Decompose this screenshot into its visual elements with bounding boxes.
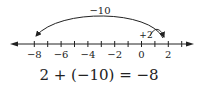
tick-label: 2 <box>165 49 171 60</box>
number-line-axis <box>10 42 194 47</box>
tick-labels: −8−6−4−202 <box>27 49 172 60</box>
jump-label-plus-2: +2 <box>139 30 152 40</box>
number-line-diagram: −8−6−4−202 −10 +2 <box>0 0 198 99</box>
tick-label: −8 <box>27 49 42 60</box>
tick-label: −6 <box>54 49 69 60</box>
tick-label: 0 <box>138 49 144 60</box>
equation: 2 + (−10) = −8 <box>0 66 198 84</box>
right-arrow-icon <box>186 42 194 47</box>
tick-label: −2 <box>107 49 122 60</box>
jump-label-minus-10: −10 <box>89 5 110 16</box>
left-arrow-icon <box>10 42 18 47</box>
tick-label: −4 <box>81 49 96 60</box>
